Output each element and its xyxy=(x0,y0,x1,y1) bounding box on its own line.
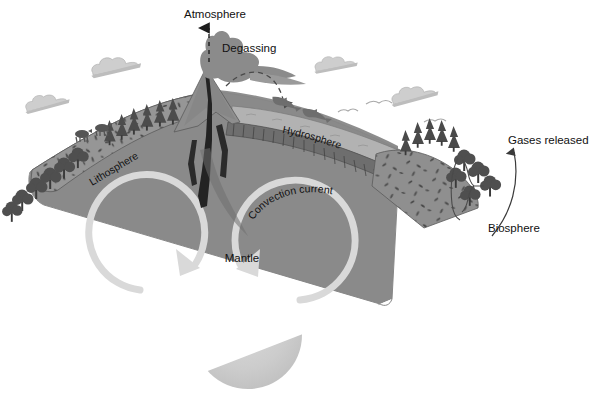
degassing-label: Degassing xyxy=(222,42,276,54)
biosphere-label: Biosphere xyxy=(488,222,540,234)
mantle-label: Mantle xyxy=(225,252,260,264)
earth-systems-diagram: Core Convection current Mantle Lit xyxy=(0,0,601,405)
gases-released-label: Gases released xyxy=(508,134,589,146)
atmosphere-label: Atmosphere xyxy=(184,8,246,20)
diagram-canvas: Core Convection current Mantle Lit xyxy=(0,0,601,405)
